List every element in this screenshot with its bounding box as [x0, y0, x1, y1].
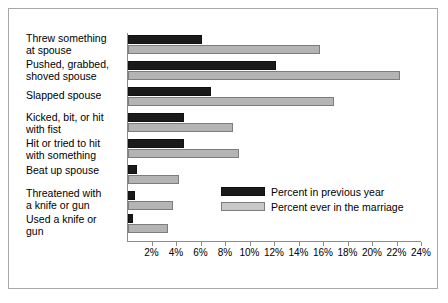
bar [128, 113, 184, 122]
bar [128, 175, 179, 184]
bar [128, 45, 320, 54]
x-tick-label: 20% [362, 247, 382, 258]
bar [128, 224, 168, 233]
legend-item: Percent ever in the marriage [221, 200, 403, 213]
x-tick-label: 22% [386, 247, 406, 258]
x-tick-label: 8% [218, 247, 232, 258]
x-tick [348, 242, 349, 246]
x-tick [176, 242, 177, 246]
x-tick [225, 242, 226, 246]
category-label: Beat up spouse [26, 165, 134, 177]
bar [128, 87, 211, 96]
x-tick-label: 24% [411, 247, 431, 258]
x-tick-label: 16% [313, 247, 333, 258]
x-tick-label: 18% [337, 247, 357, 258]
category-label: Threw something at spouse [26, 33, 134, 56]
category-label: Used a knife or gun [26, 214, 134, 237]
axis-and-bars-area: 2%4%6%8%10%12%14%16%18%20%22%24% [127, 33, 422, 257]
x-tick-label: 14% [288, 247, 308, 258]
bar [128, 214, 133, 223]
x-tick [152, 242, 153, 246]
legend-label: Percent ever in the marriage [271, 201, 403, 213]
x-tick-label: 2% [144, 247, 158, 258]
x-tick-label: 6% [193, 247, 207, 258]
category-label: Threatened with a knife or gun [26, 188, 134, 211]
x-tick [323, 242, 324, 246]
category-label: Kicked, bit, or hit with fist [26, 112, 134, 135]
chart-plot-area: Threw something at spousePushed, grabbed… [9, 9, 437, 288]
x-tick [372, 242, 373, 246]
x-tick [250, 242, 251, 246]
bar [128, 191, 135, 200]
x-tick [299, 242, 300, 246]
legend-swatch [221, 187, 265, 196]
bar [128, 71, 400, 80]
bar [128, 139, 184, 148]
x-tick-label: 10% [239, 247, 259, 258]
chart-figure: Threw something at spousePushed, grabbed… [8, 8, 438, 289]
category-label: Pushed, grabbed, shoved spouse [26, 59, 134, 82]
bar [128, 61, 276, 70]
legend-swatch [221, 202, 265, 211]
x-tick-label: 12% [264, 247, 284, 258]
bar [128, 97, 334, 106]
x-tick [201, 242, 202, 246]
x-tick [397, 242, 398, 246]
x-tick-label: 4% [169, 247, 183, 258]
x-tick [274, 242, 275, 246]
chart-legend: Percent in previous yearPercent ever in … [221, 185, 403, 215]
x-tick [421, 242, 422, 246]
bar [128, 201, 173, 210]
bar [128, 165, 137, 174]
bar [128, 123, 233, 132]
category-label: Hit or tried to hit with something [26, 138, 134, 161]
category-label-column: Threw something at spousePushed, grabbed… [26, 33, 126, 233]
bar [128, 35, 202, 44]
category-label: Slapped spouse [26, 90, 134, 102]
legend-item: Percent in previous year [221, 185, 403, 198]
bar [128, 149, 239, 158]
legend-label: Percent in previous year [271, 186, 384, 198]
